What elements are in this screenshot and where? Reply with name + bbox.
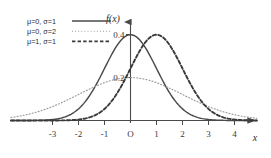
- y-axis-label: f(x): [106, 13, 121, 25]
- curve-mu0sigma2: [11, 78, 257, 119]
- x-tick-label-1: -2: [75, 129, 83, 139]
- y-value-label-0: 0.4: [113, 30, 125, 40]
- x-tick-label-4: 1: [154, 129, 159, 139]
- legend-label-0: μ=0, σ=1: [27, 17, 56, 26]
- x-tick-label-3: O: [127, 129, 134, 139]
- x-axis-label: x: [252, 132, 258, 143]
- x-axis-ticks: [53, 121, 235, 126]
- x-tick-label-6: 3: [206, 129, 211, 139]
- x-tick-label-2: -1: [101, 129, 109, 139]
- legend-label-1: μ=0, σ=2: [27, 27, 56, 36]
- y-value-labels: 0.40.2: [113, 30, 125, 83]
- x-tick-label-5: 2: [180, 129, 185, 139]
- legend-label-2: μ=1, σ=1: [27, 37, 56, 46]
- chart-legend: μ=0, σ=1μ=0, σ=2μ=1, σ=1: [27, 17, 111, 46]
- y-value-label-1: 0.2: [113, 73, 124, 83]
- x-axis-tick-labels: -3-2-1O1234: [49, 129, 238, 139]
- normal-distribution-chart: -3-2-1O1234 0.40.2 f(x) x μ=0, σ=1μ=0, σ…: [0, 0, 271, 158]
- x-tick-label-0: -3: [49, 129, 57, 139]
- chart-svg: -3-2-1O1234 0.40.2 f(x) x μ=0, σ=1μ=0, σ…: [0, 0, 271, 158]
- x-tick-label-7: 4: [232, 129, 237, 139]
- curve-group: [11, 35, 257, 121]
